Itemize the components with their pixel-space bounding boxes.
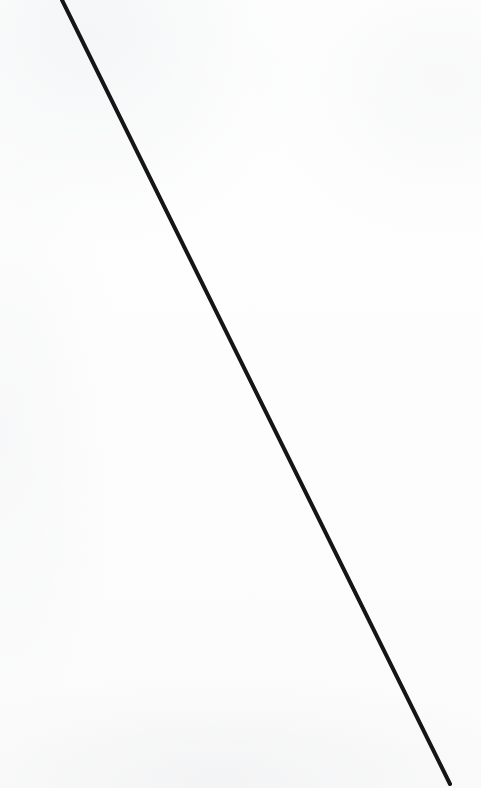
figure-canvas xyxy=(0,0,481,788)
diagonal-line-stroke xyxy=(62,0,450,784)
line-figure-svg xyxy=(0,0,481,788)
